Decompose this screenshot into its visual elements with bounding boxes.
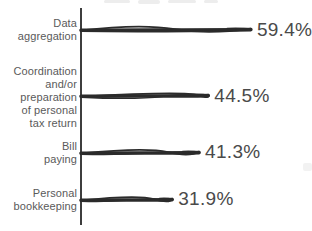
bar-bill-paying bbox=[81, 144, 203, 162]
cropped-edge-artifact bbox=[138, 0, 160, 4]
value-label-data-aggregation: 59.4% bbox=[257, 19, 312, 41]
value-label-bill-paying: 41.3% bbox=[205, 141, 260, 163]
bar-personal-bookkeeping bbox=[81, 191, 176, 209]
value-label-tax-return: 44.5% bbox=[214, 85, 269, 107]
category-label-tax-return: Coordination and/or preparation of perso… bbox=[1, 65, 77, 130]
hand-drawn-bar-chart: Data aggregation 59.4% Coordination and/… bbox=[0, 0, 312, 231]
cropped-edge-artifact bbox=[104, 0, 130, 3]
cropped-edge-artifact bbox=[168, 0, 196, 3]
bar-data-aggregation bbox=[81, 21, 255, 39]
cropped-edge-artifact bbox=[204, 0, 218, 3]
bar-tax-return bbox=[81, 87, 212, 105]
value-label-personal-bookkeeping: 31.9% bbox=[178, 188, 233, 210]
category-label-personal-bookkeeping: Personal bookkeeping bbox=[1, 187, 77, 213]
paper-artifact bbox=[303, 163, 312, 171]
category-label-data-aggregation: Data aggregation bbox=[1, 17, 77, 43]
category-label-bill-paying: Bill paying bbox=[1, 140, 77, 166]
